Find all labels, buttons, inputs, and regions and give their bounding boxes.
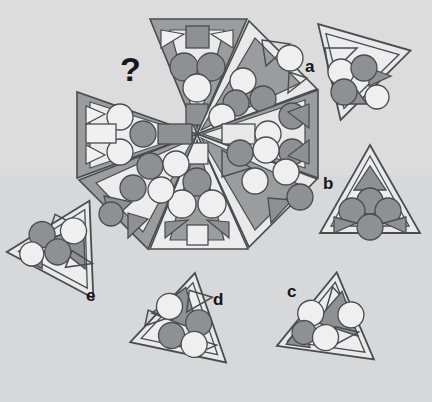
- gray-circle: [120, 175, 146, 201]
- square-shape: [187, 225, 208, 245]
- puzzle-artwork: [0, 0, 432, 402]
- option-b[interactable]: [320, 145, 420, 240]
- option-label-b: b: [323, 175, 333, 192]
- question-mark: ?: [120, 52, 141, 86]
- white-circle: [163, 151, 189, 177]
- option-label-e: e: [86, 287, 95, 304]
- option-c[interactable]: [277, 266, 385, 360]
- white-circle: [253, 137, 279, 163]
- white-circle: [183, 74, 211, 102]
- gray-circle: [287, 184, 313, 210]
- gray-circle: [357, 214, 383, 240]
- option-d[interactable]: [130, 263, 243, 365]
- puzzle-canvas: ? a b c d e: [0, 0, 432, 402]
- gray-circle: [99, 202, 123, 226]
- white-circle: [148, 177, 174, 203]
- gray-circle: [331, 79, 357, 105]
- gray-circle: [351, 55, 377, 81]
- option-label-c: c: [287, 283, 296, 300]
- rect-shape: [158, 124, 192, 144]
- white-circle: [365, 85, 389, 109]
- option-label-d: d: [213, 291, 223, 308]
- gray-circle: [130, 121, 156, 147]
- white-circle: [277, 45, 303, 71]
- square-shape: [186, 26, 209, 48]
- option-label-a: a: [305, 58, 314, 75]
- wheel: [77, 19, 318, 249]
- rect-shape: [86, 124, 116, 143]
- gray-circle: [137, 153, 163, 179]
- gray-circle: [227, 140, 253, 166]
- white-circle: [273, 159, 299, 185]
- white-circle: [198, 190, 226, 218]
- white-circle: [242, 168, 268, 194]
